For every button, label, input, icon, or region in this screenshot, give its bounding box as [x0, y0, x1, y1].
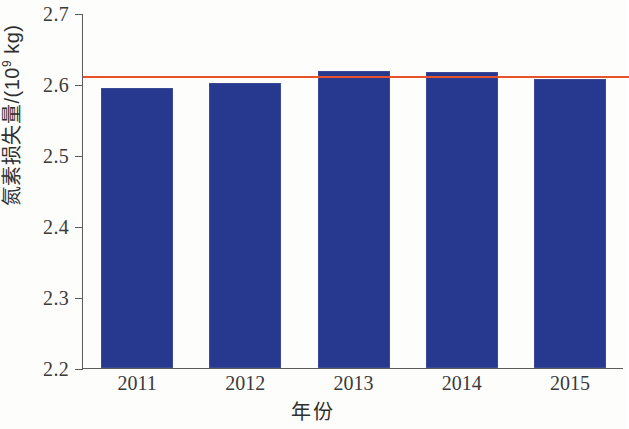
x-tick-label: 2014	[442, 372, 482, 395]
bar-2015	[534, 79, 606, 368]
y-tick-label: 2.6	[43, 74, 69, 97]
x-axis-title: 年份	[0, 396, 626, 425]
y-tick-label: 2.3	[43, 287, 69, 310]
mean-reference-line	[83, 76, 629, 78]
y-tick-mark: 2.4	[75, 227, 83, 228]
y-tick-label: 2.7	[43, 3, 69, 26]
bar-2013	[318, 71, 390, 368]
bar-2012	[209, 83, 281, 368]
x-tick-label: 2015	[550, 372, 590, 395]
y-axis-title: 氮素损失量/(109 kg)	[0, 0, 25, 206]
y-tick-label: 2.4	[43, 216, 69, 239]
y-tick-label: 2.2	[43, 358, 69, 381]
y-tick-mark: 2.7	[75, 14, 83, 15]
x-tick-label: 2011	[117, 372, 156, 395]
y-tick-label: 2.5	[43, 145, 69, 168]
plot-area: 2.22.32.42.52.62.7 20112012201320142015	[82, 14, 623, 369]
x-tick-label: 2013	[334, 372, 374, 395]
bar-2011	[101, 88, 173, 368]
bar-2014	[426, 72, 498, 368]
y-tick-mark: 2.2	[75, 369, 83, 370]
x-tick-label: 2012	[225, 372, 265, 395]
y-tick-mark: 2.5	[75, 156, 83, 157]
y-tick-mark: 2.3	[75, 298, 83, 299]
y-tick-mark: 2.6	[75, 85, 83, 86]
